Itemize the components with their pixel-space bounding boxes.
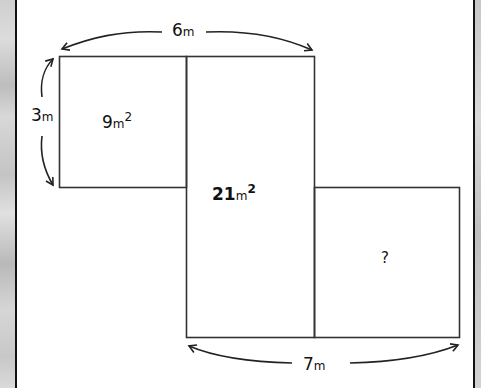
left-dimension-label: 3m xyxy=(31,105,54,125)
rect-middle xyxy=(187,57,315,338)
dimension-arrow-top-right xyxy=(206,32,312,50)
dimension-arrow-top-left xyxy=(62,32,162,49)
area-label-middle: 21m2 xyxy=(212,182,256,204)
dimension-arrow-bottom-right xyxy=(350,345,458,363)
area-diagram: 6m 3m 7m 9m2 21m2 ? xyxy=(0,0,481,388)
bottom-dimension-label: 7m xyxy=(303,354,326,374)
top-dimension-label: 6m xyxy=(172,20,195,40)
dimension-arrow-left-up xyxy=(41,59,53,97)
dimension-arrow-bottom-left xyxy=(189,346,292,363)
area-label-unknown: ? xyxy=(381,249,389,267)
area-label-left: 9m2 xyxy=(102,110,132,132)
dimension-arrow-left-down xyxy=(41,136,53,185)
